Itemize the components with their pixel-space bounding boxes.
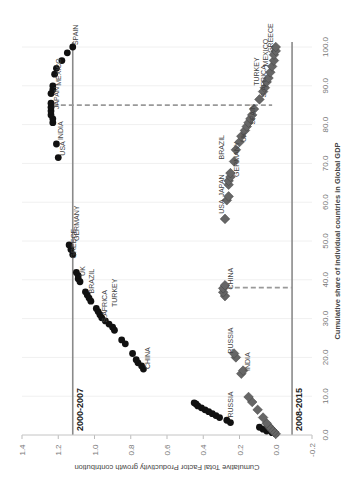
y-tick-label: 0.6 [163,444,172,456]
y-tick-label: 0.2 [236,444,245,456]
country-label: RUSSIA [227,391,234,417]
country-label: S.AFRICA [101,290,108,323]
x-tick-label: 30.0 [321,310,330,326]
x-tick-label: 100.0 [321,36,330,57]
rotated-chart: 2000-20072008-2015 0.010.020.030.040.050… [0,0,356,495]
y-tick-label: 0.8 [127,444,136,456]
country-label: MEXICO [55,58,62,86]
x-tick-label: 80.0 [321,116,330,132]
x-axis-title: Cumulative share of individual countries… [333,142,342,339]
y-tick-label: 1.4 [18,444,27,456]
country-label: RUSSIA [227,327,234,353]
country-label: JAPAN [218,174,225,196]
point-2000-2007 [93,305,100,312]
point-2000-2007 [118,337,125,344]
point-2000-2007 [133,356,140,363]
country-label: BRAZIL [88,269,95,294]
point-2008-2015 [220,214,230,224]
y-tick-label: 1.0 [91,444,100,456]
x-tick-label: 60.0 [321,194,330,210]
x-tick-label: 70.0 [321,155,330,171]
reference-lines: 2000-20072008-2015 [53,42,304,435]
x-tick-label: 20.0 [321,349,330,365]
country-label: USA [218,199,225,214]
country-label: GERMANY [73,205,80,241]
country-label: GERMANY [233,141,240,177]
scatter-chart-svg: 2000-20072008-2015 0.010.020.030.040.050… [0,0,356,495]
axes: 0.010.020.030.040.050.060.070.080.090.01… [18,36,330,456]
y-tick-label: 1.2 [54,444,63,456]
point-2000-2007 [191,399,198,406]
point-2008-2015 [253,405,263,415]
country-label: UK [240,132,247,142]
country-label: CHINA [227,267,234,289]
x-tick-label: 0.0 [321,429,330,441]
x-tick-label: 40.0 [321,271,330,287]
country-label: GREECE [267,23,274,53]
point-labels: RUSSIACHINAS.AFRICATURKEYBRAZILUKGREECEG… [53,23,274,418]
x-tick-label: 50.0 [321,233,330,249]
country-label: INDIA [57,121,64,140]
point-2000-2007 [64,49,71,56]
country-label: CHINA [144,347,151,369]
country-label: TURKEY [253,57,260,86]
country-label: S.AFRICA [260,65,267,98]
country-label: BRAZIL [218,135,225,160]
country-label: USA [59,141,66,156]
country-label: UK [79,266,86,276]
country-label: INDIA [244,352,251,371]
x-tick-label: 10.0 [321,388,330,404]
y-tick-label: -0.2 [308,443,317,457]
point-2000-2007 [129,350,136,357]
point-2000-2007 [256,424,263,431]
data-points [48,42,281,438]
country-label: JAPAN [53,87,60,109]
x-tick-label: 90.0 [321,77,330,93]
period-label: 2000-2007 [75,388,85,431]
country-label: SPAIN [72,25,79,46]
y-axis-title: Cumulative Total Factor Productivity gro… [75,463,260,472]
y-tick-label: 0.4 [199,444,208,456]
period-label: 2008-2015 [294,388,304,431]
country-label: TURKEY [111,278,118,307]
country-label: SPAIN [249,104,256,125]
y-tick-label: 0.0 [272,444,281,456]
